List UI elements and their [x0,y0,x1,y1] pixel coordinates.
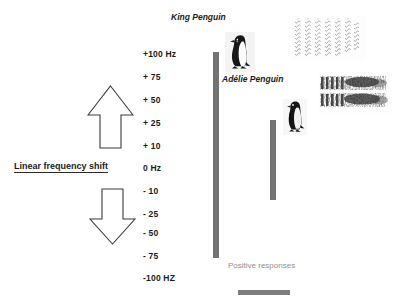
adelie-penguin-spectrogram [318,72,390,114]
linear-frequency-shift-label: Linear frequency shift [14,161,108,173]
up-arrow-icon [87,85,134,149]
king-penguin-title: King Penguin [171,12,226,22]
king-penguin-response-bar [213,52,219,258]
axis-tick-plus100: +100 Hz [143,49,176,59]
king-penguin-icon [225,32,255,72]
down-arrow-icon [89,188,136,245]
positive-responses-label: Positive responses [228,261,295,270]
scale-bar [238,290,290,295]
axis-tick-zero: 0 Hz [143,163,161,173]
axis-tick-plus25: + 25 [143,118,161,128]
axis-tick-plus75: + 75 [143,72,161,82]
axis-tick-plus50: + 50 [143,95,161,105]
axis-tick-minus50: - 50 [143,228,158,238]
axis-tick-minus75: - 75 [143,251,158,261]
adelie-penguin-response-bar [270,120,276,200]
axis-tick-plus10: + 10 [143,141,161,151]
axis-tick-minus100: -100 HZ [143,273,175,283]
adelie-penguin-icon [283,99,307,135]
king-penguin-spectrogram [292,16,366,60]
adelie-penguin-title: Adélie Penguin [222,74,283,84]
frequency-shift-response-figure: +100 Hz + 75 + 50 + 25 + 10 0 Hz - 10 - … [0,0,412,299]
axis-tick-minus25: - 25 [143,209,158,219]
axis-tick-minus10: - 10 [143,186,158,196]
